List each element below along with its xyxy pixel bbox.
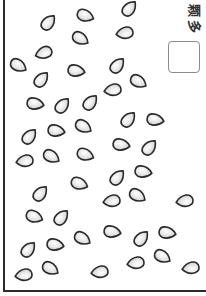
seed-icon	[152, 248, 172, 266]
seed-icon	[134, 165, 153, 179]
seed-icon	[72, 230, 92, 248]
seed-icon	[158, 226, 177, 240]
seed-icon	[32, 69, 51, 89]
seed-icon	[8, 57, 28, 75]
seed-icon	[26, 97, 45, 111]
seed-icon	[112, 138, 131, 152]
seed-icon	[140, 137, 159, 157]
seed-icon	[102, 194, 121, 208]
seed-icon	[175, 194, 194, 208]
unit-label: 颗 多	[182, 2, 204, 36]
seed-icon	[103, 83, 122, 97]
seed-icon	[19, 239, 38, 259]
seed-icon	[41, 148, 61, 166]
seed-icon	[90, 265, 109, 279]
seed-icon	[81, 92, 100, 112]
seed-icon	[34, 45, 54, 61]
seed-icon	[14, 268, 33, 282]
seed-icon	[127, 187, 147, 205]
seed-icon	[40, 260, 60, 278]
seed-icon	[126, 256, 145, 270]
seed-icon	[67, 64, 86, 78]
seed-icon	[73, 118, 93, 136]
seed-icon	[46, 238, 65, 252]
answer-box[interactable]	[168, 41, 200, 73]
seed-icon	[15, 154, 34, 168]
seed-icon	[119, 109, 138, 129]
unit-char-1: 颗	[185, 4, 201, 17]
seed-icon	[132, 228, 151, 248]
seed-icon	[20, 126, 39, 146]
seed-icon	[39, 12, 58, 32]
seed-icon	[128, 73, 148, 91]
seed-icon	[120, 0, 139, 18]
seed-icon	[70, 30, 90, 48]
seed-icon	[108, 55, 127, 75]
seed-icon	[115, 26, 134, 40]
seed-icon	[52, 207, 71, 227]
seed-icon	[53, 95, 72, 115]
seed-icon	[108, 167, 127, 187]
seed-icon	[31, 183, 50, 203]
seed-icon	[146, 113, 165, 127]
seed-icon	[103, 225, 122, 239]
unit-char-2: 多	[185, 20, 201, 33]
seed-icon	[181, 261, 200, 275]
seed-icon	[47, 124, 66, 138]
seed-icon	[76, 147, 96, 163]
seed-icon	[25, 209, 45, 225]
seed-icon	[76, 8, 96, 24]
seed-icon	[70, 176, 90, 192]
